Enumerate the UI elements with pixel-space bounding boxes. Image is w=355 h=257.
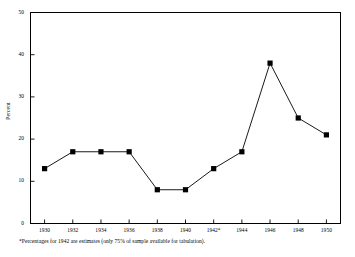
chart-figure: Percent 01020304050 19301932193419361938… <box>0 0 355 257</box>
series-line <box>45 63 327 190</box>
data-point-marker <box>267 61 272 66</box>
chart-footnote: *Percentages for 1942 are estimates (onl… <box>19 238 205 244</box>
data-point-marker <box>211 166 216 171</box>
data-point-marker <box>98 149 103 154</box>
y-axis-ticks <box>31 13 35 224</box>
data-point-marker <box>296 115 301 120</box>
data-point-marker <box>324 132 329 137</box>
data-point-marker <box>239 149 244 154</box>
series-markers <box>42 61 329 193</box>
x-axis-ticks <box>45 220 327 224</box>
y-tick-label: 50 <box>8 10 24 15</box>
x-tick-label: 1950 <box>309 228 343 233</box>
data-point-marker <box>127 149 132 154</box>
y-tick-label: 20 <box>8 136 24 141</box>
y-tick-label: 0 <box>8 221 24 226</box>
data-point-marker <box>42 166 47 171</box>
data-point-marker <box>155 187 160 192</box>
chart-canvas <box>0 0 355 257</box>
data-point-marker <box>183 187 188 192</box>
y-tick-label: 10 <box>8 178 24 183</box>
data-point-marker <box>70 149 75 154</box>
y-tick-label: 30 <box>8 94 24 99</box>
y-tick-label: 40 <box>8 52 24 57</box>
